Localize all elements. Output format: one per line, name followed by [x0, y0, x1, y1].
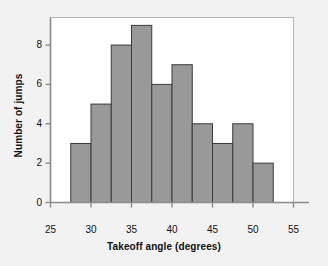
x-tick-label: 40 [157, 224, 187, 235]
x-tick-label: 35 [117, 224, 147, 235]
y-tick-label: 6 [24, 78, 42, 89]
y-axis-title: Number of jumps [13, 46, 24, 186]
x-axis-title: Takeoff angle (degrees) [0, 241, 328, 252]
x-tick-label: 55 [279, 224, 309, 235]
y-tick-label: 0 [24, 197, 42, 208]
histogram-bar [132, 25, 152, 202]
histogram-bar [172, 65, 192, 203]
histogram-bar [253, 163, 273, 202]
histogram-bar [91, 104, 111, 202]
y-tick-label: 4 [24, 118, 42, 129]
histogram-bar [233, 124, 253, 203]
x-tick-label: 50 [238, 224, 268, 235]
y-tick-label: 2 [24, 157, 42, 168]
histogram-bar [152, 84, 172, 202]
x-tick-label: 45 [198, 224, 228, 235]
x-tick-label: 30 [76, 224, 106, 235]
histogram-figure: Takeoff angle (degrees) Number of jumps … [0, 0, 328, 266]
histogram-bar [213, 143, 233, 202]
histogram-bar [111, 45, 131, 202]
histogram-bar [71, 143, 91, 202]
histogram-bar [192, 124, 212, 203]
y-tick-label: 8 [24, 39, 42, 50]
x-tick-label: 25 [36, 224, 66, 235]
